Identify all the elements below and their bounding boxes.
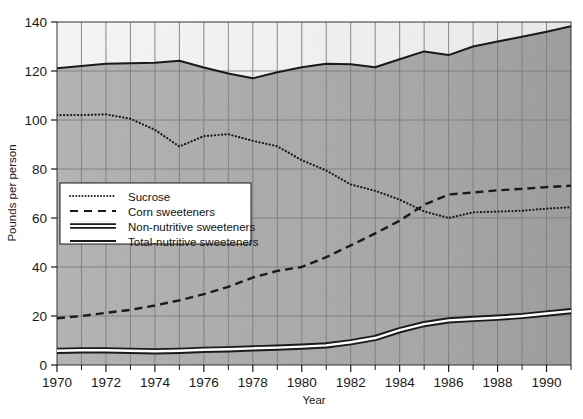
x-tick-label: 1986 (434, 375, 464, 390)
legend-item-label: Sucrose (128, 191, 170, 203)
x-axis-ticks (57, 365, 571, 372)
y-tick-label: 80 (32, 162, 47, 177)
legend-item-label: Corn sweeteners (128, 206, 215, 218)
y-tick-label: 140 (24, 15, 47, 30)
y-tick-label: 40 (32, 260, 47, 275)
x-tick-label: 1984 (385, 375, 416, 390)
x-tick-label: 1990 (532, 375, 562, 390)
y-axis-tick-labels: 020406080100120140 (24, 15, 47, 373)
x-axis-title: Year (302, 394, 325, 406)
x-tick-label: 1982 (336, 375, 366, 390)
legend-item-label: Non-nutritive sweeteners (128, 221, 255, 233)
y-tick-label: 20 (32, 309, 47, 324)
y-tick-label: 0 (39, 358, 47, 373)
y-tick-label: 100 (24, 113, 47, 128)
x-axis-tick-labels: 1970197219741976197819801982198419861988… (42, 375, 562, 390)
x-tick-label: 1976 (189, 375, 219, 390)
x-tick-label: 1988 (483, 375, 513, 390)
y-tick-label: 120 (24, 64, 47, 79)
x-tick-label: 1972 (91, 375, 121, 390)
y-axis-ticks (51, 22, 57, 365)
x-tick-label: 1978 (238, 375, 268, 390)
legend-item-label: Total-nutritive sweeteners (128, 236, 259, 248)
chart-canvas: 020406080100120140 197019721974197619781… (0, 0, 583, 419)
x-tick-label: 1974 (140, 375, 171, 390)
x-tick-label: 1970 (42, 375, 72, 390)
chart-legend: SucroseCorn sweetenersNon-nutritive swee… (60, 183, 259, 248)
x-tick-label: 1980 (287, 375, 317, 390)
sweetener-consumption-chart: 020406080100120140 197019721974197619781… (0, 0, 583, 419)
y-tick-label: 60 (32, 211, 47, 226)
y-axis-title: Pounds per person (6, 144, 18, 241)
